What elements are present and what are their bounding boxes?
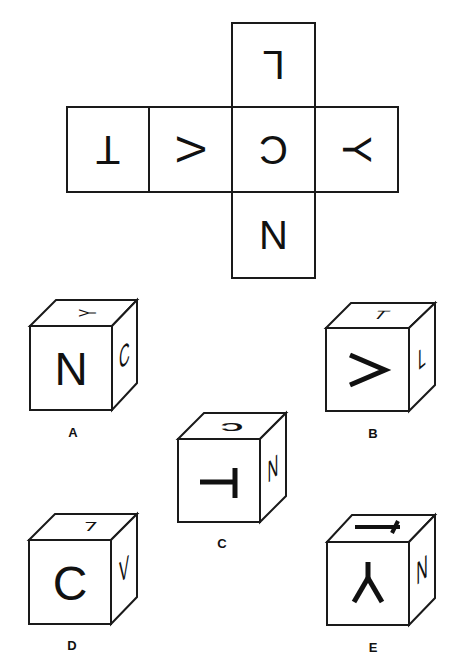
option-c-label: C — [217, 536, 227, 551]
option-a-cube[interactable]: Y N C A — [30, 300, 137, 440]
svg-text:C: C — [259, 128, 288, 172]
option-c-top-glyph: C — [221, 421, 244, 434]
net-face-right: Y — [315, 107, 398, 192]
option-d-front-glyph: C — [53, 557, 88, 610]
svg-text:L: L — [262, 43, 284, 87]
net-face-left-inner: V — [149, 107, 232, 192]
net-face-center: C — [232, 107, 315, 192]
net-face-bottom: N — [232, 192, 315, 278]
option-e-label: E — [369, 640, 378, 655]
net-face-top: L — [232, 23, 315, 107]
option-a-top-glyph: Y — [75, 309, 102, 317]
option-d-label: D — [67, 638, 76, 653]
option-b-label: B — [368, 426, 377, 441]
cube-puzzle-figure: L T V C Y N — [0, 0, 460, 670]
svg-text:Y: Y — [75, 309, 102, 317]
svg-text:C: C — [221, 421, 244, 434]
option-b-side-glyph: L — [418, 339, 426, 376]
svg-text:L: L — [418, 339, 426, 376]
cube-net: L T V C Y N — [67, 23, 398, 278]
svg-text:N: N — [259, 213, 288, 257]
net-face-left-outer: T — [67, 107, 149, 192]
svg-text:V: V — [169, 136, 213, 163]
option-a-label: A — [68, 425, 78, 440]
option-d-cube[interactable]: L C V D — [29, 514, 137, 653]
option-a-front-glyph: N — [54, 343, 87, 395]
svg-text:T: T — [96, 128, 120, 172]
svg-text:Y: Y — [335, 136, 379, 163]
